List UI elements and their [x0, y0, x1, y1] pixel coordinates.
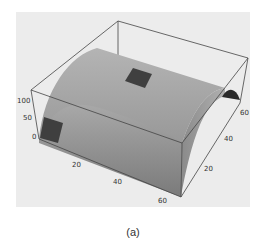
- figure-caption: (a): [0, 226, 266, 238]
- surface-plot: 100 50 0 20 40 60 20 40 60: [0, 0, 266, 249]
- y-tick-40: 40: [224, 135, 233, 143]
- z-tick-100: 100: [17, 97, 30, 105]
- y-tick-20: 20: [204, 165, 213, 173]
- z-tick-0: 0: [32, 133, 36, 141]
- z-tick-50: 50: [23, 114, 32, 122]
- x-tick-20: 20: [72, 161, 81, 169]
- x-tick-60: 60: [158, 197, 167, 205]
- y-tick-60: 60: [240, 109, 249, 117]
- y-axis-ticks: 20 40 60: [204, 109, 249, 173]
- x-tick-40: 40: [113, 178, 122, 186]
